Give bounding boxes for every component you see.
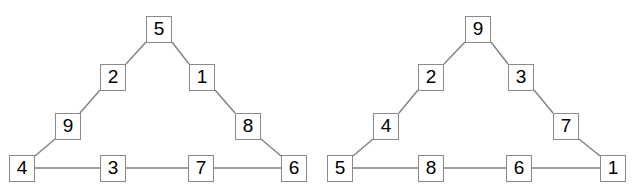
node-R-bottom-1[interactable]: 5 bbox=[327, 155, 353, 182]
edge-L-right-upper-to-L-right-lower bbox=[215, 90, 235, 113]
node-L-right-upper[interactable]: 1 bbox=[189, 64, 215, 91]
node-R-left-lower[interactable]: 4 bbox=[373, 113, 399, 140]
node-L-right-lower[interactable]: 8 bbox=[235, 113, 261, 140]
node-R-bottom-3[interactable]: 6 bbox=[506, 155, 532, 182]
edge-L-bottom-1-to-L-left-lower bbox=[35, 139, 55, 156]
node-R-bottom-2[interactable]: 8 bbox=[418, 155, 444, 182]
edge-L-left-lower-to-L-left-upper bbox=[80, 90, 100, 113]
node-L-bottom-3[interactable]: 7 bbox=[188, 155, 214, 182]
node-R-bottom-4[interactable]: 1 bbox=[600, 155, 626, 182]
node-R-apex[interactable]: 9 bbox=[465, 16, 491, 43]
edge-R-bottom-1-to-R-left-lower bbox=[353, 139, 373, 156]
edge-R-left-upper-to-R-apex bbox=[444, 42, 465, 64]
node-R-right-upper[interactable]: 3 bbox=[508, 64, 534, 91]
edge-R-left-lower-to-R-left-upper bbox=[399, 90, 418, 113]
node-L-bottom-2[interactable]: 3 bbox=[100, 155, 126, 182]
magic-triangle-figure: 521984376923475861 bbox=[0, 0, 632, 190]
node-L-bottom-1[interactable]: 4 bbox=[9, 155, 35, 182]
edge-R-apex-to-R-right-upper bbox=[491, 42, 508, 64]
edge-R-right-upper-to-R-right-lower bbox=[534, 90, 553, 113]
node-L-apex[interactable]: 5 bbox=[146, 16, 172, 43]
edge-L-apex-to-L-right-upper bbox=[172, 42, 189, 64]
node-R-left-upper[interactable]: 2 bbox=[418, 64, 444, 91]
edge-R-right-lower-to-R-bottom-4 bbox=[579, 139, 600, 156]
node-R-right-lower[interactable]: 7 bbox=[553, 113, 579, 140]
edge-layer bbox=[0, 0, 632, 190]
edge-L-left-upper-to-L-apex bbox=[126, 42, 146, 64]
node-L-bottom-4[interactable]: 6 bbox=[281, 155, 307, 182]
node-L-left-upper[interactable]: 2 bbox=[100, 64, 126, 91]
edge-L-right-lower-to-L-bottom-4 bbox=[261, 139, 281, 156]
edge-group bbox=[35, 42, 600, 168]
node-L-left-lower[interactable]: 9 bbox=[55, 113, 81, 140]
